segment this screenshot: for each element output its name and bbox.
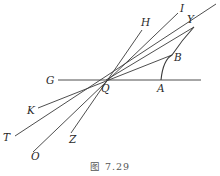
line-TY <box>15 4 216 136</box>
label-Y: Y <box>187 13 195 25</box>
label-B: B <box>173 51 182 63</box>
label-T: T <box>3 131 11 143</box>
label-Q: Q <box>101 82 110 95</box>
label-H: H <box>140 16 151 28</box>
label-G: G <box>46 74 54 86</box>
label-I: I <box>179 2 185 14</box>
label-Z: Z <box>68 133 77 145</box>
label-A: A <box>156 82 165 94</box>
label-K: K <box>26 104 36 116</box>
geometry-diagram: G Q A B Y H I K T O Z <box>0 0 220 176</box>
figure-caption: 图 7.29 <box>0 159 220 173</box>
